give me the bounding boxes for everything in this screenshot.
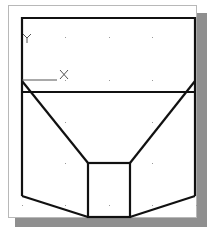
cad-viewport: X Y bbox=[0, 0, 216, 233]
outlet-box bbox=[88, 163, 130, 217]
right-bottom-line bbox=[130, 196, 195, 217]
hopper-drawing: X Y bbox=[0, 0, 216, 233]
hopper-outline bbox=[22, 18, 195, 217]
ucs-icon bbox=[22, 34, 68, 80]
left-bottom-line bbox=[22, 196, 88, 217]
left-slope-line bbox=[22, 81, 88, 163]
outer-profile-line bbox=[22, 18, 195, 196]
grid-dots bbox=[22, 37, 197, 206]
right-slope-line bbox=[130, 81, 195, 163]
